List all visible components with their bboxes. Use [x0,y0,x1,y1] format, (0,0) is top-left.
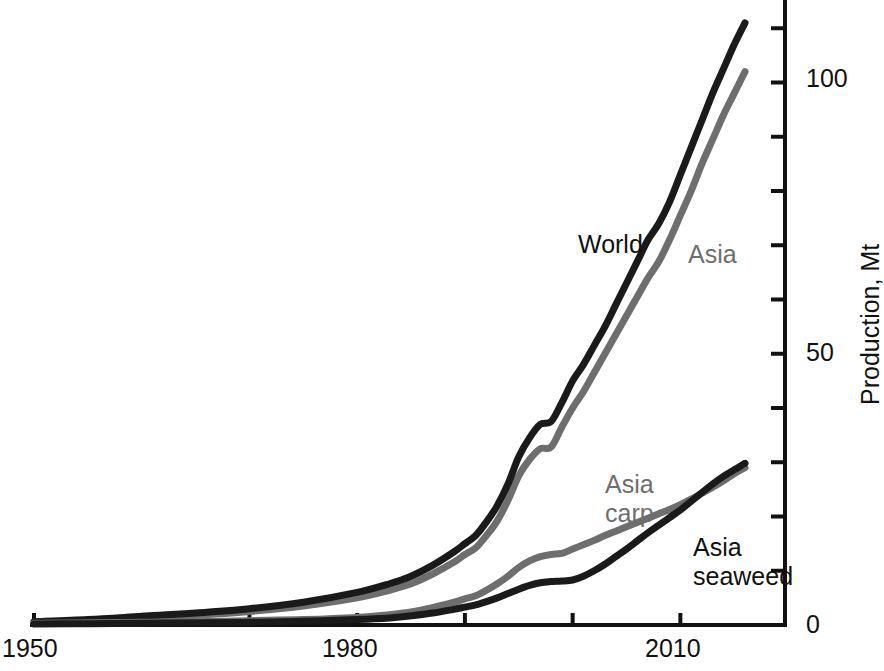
y-tick-label-50: 50 [806,340,834,365]
y-axis-title: Production, Mt [858,244,883,405]
chart-axes [32,0,785,625]
series-label-asia-seaweed: Asia seaweed [693,533,793,591]
series-label-asia-carp-line1: Asia [605,470,654,499]
y-tick-label-0: 0 [806,612,820,637]
series-label-asia-carp-line2: carp [605,499,654,528]
series-label-asia-seaweed-line2: seaweed [693,562,793,591]
series-label-asia-carp: Asia carp [605,470,654,528]
series-label-asia-seaweed-line1: Asia [693,533,793,562]
x-tick-label-1980: 1980 [322,636,378,661]
chart-series-group [34,23,745,624]
series-label-asia: Asia [688,240,737,269]
y-tick-label-100: 100 [806,66,848,91]
x-tick-label-1950: 1950 [2,636,58,661]
series-line-world [34,23,745,622]
series-label-world: World [578,230,643,259]
y-axis-ticks [771,28,785,571]
x-tick-label-2010: 2010 [645,636,701,661]
